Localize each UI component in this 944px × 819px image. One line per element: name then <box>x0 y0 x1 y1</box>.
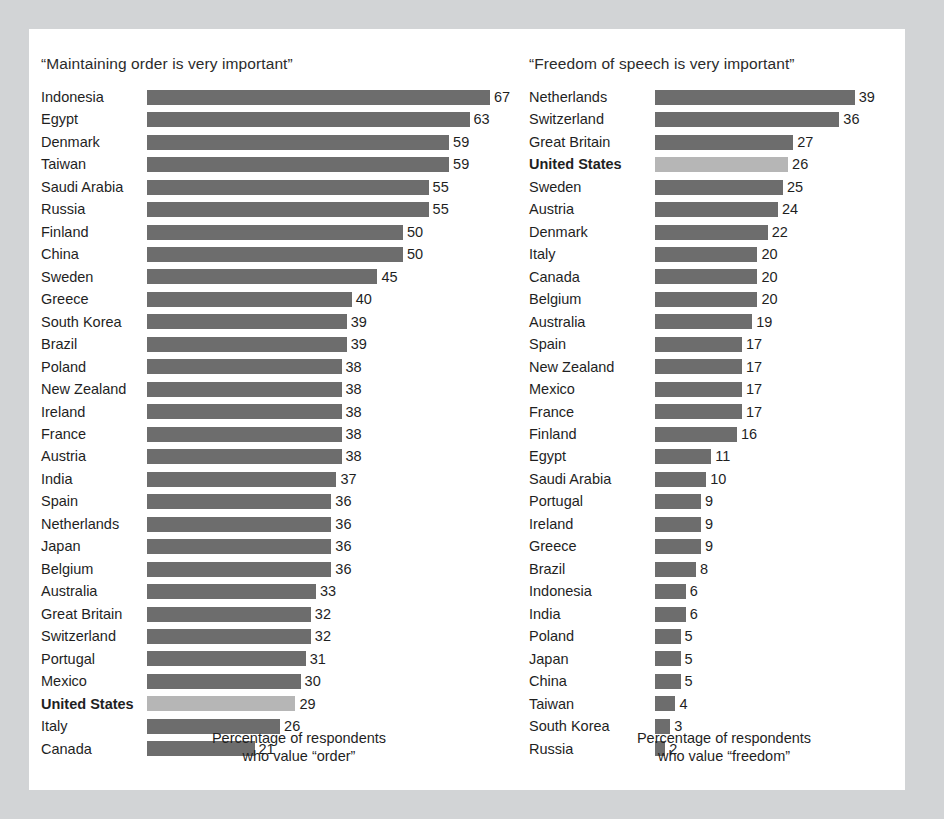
chart-title-order: “Maintaining order is very important” <box>41 55 293 73</box>
bar-row-label: Great Britain <box>529 135 655 150</box>
bar-row: Russia55 <box>29 198 529 220</box>
bar-track: 32 <box>147 603 529 625</box>
bar-row: Sweden45 <box>29 266 529 288</box>
bar-value-label: 24 <box>782 202 798 217</box>
bar-row-label: Egypt <box>529 449 655 464</box>
bar <box>147 292 352 307</box>
bar-track: 9 <box>655 535 905 557</box>
bar-row-label: Brazil <box>529 562 655 577</box>
bar <box>147 584 316 599</box>
bar-value-label: 22 <box>772 225 788 240</box>
bar-rows-freedom: Netherlands39Switzerland36Great Britain2… <box>529 86 905 760</box>
bar-track: 67 <box>147 86 529 108</box>
bar-value-label: 19 <box>756 315 772 330</box>
bar-row: United States29 <box>29 693 529 715</box>
bar-row-label: United States <box>29 697 147 712</box>
bar-row-label: Saudi Arabia <box>529 472 655 487</box>
bar <box>655 607 686 622</box>
bar-value-label: 50 <box>407 225 423 240</box>
bar-row-label: Indonesia <box>29 90 147 105</box>
bar-track: 17 <box>655 356 905 378</box>
bar-value-label: 36 <box>335 494 351 509</box>
bar-track: 9 <box>655 513 905 535</box>
bar-row-label: Denmark <box>529 225 655 240</box>
bar <box>147 382 342 397</box>
bar-row-label: Belgium <box>529 292 655 307</box>
axis-caption-freedom-line1: Percentage of respondents <box>559 729 889 748</box>
bar-value-label: 39 <box>351 337 367 352</box>
bar <box>655 135 793 150</box>
bar-row-label: Australia <box>29 584 147 599</box>
bar-row: Italy20 <box>529 243 905 265</box>
bar <box>655 449 711 464</box>
bar-track: 37 <box>147 468 529 490</box>
bar-value-label: 36 <box>335 539 351 554</box>
bar-value-label: 50 <box>407 247 423 262</box>
bar-row-label: Switzerland <box>29 629 147 644</box>
bar-track: 39 <box>147 311 529 333</box>
bar <box>655 629 681 644</box>
bar-row-label: Great Britain <box>29 607 147 622</box>
bar-row-label: Greece <box>529 539 655 554</box>
bar-track: 38 <box>147 356 529 378</box>
bar-track: 55 <box>147 176 529 198</box>
bar-track: 6 <box>655 580 905 602</box>
bar-row: Japan5 <box>529 648 905 670</box>
bar-track: 22 <box>655 221 905 243</box>
bar <box>655 404 742 419</box>
bar-value-label: 6 <box>690 584 698 599</box>
bar-row: France17 <box>529 401 905 423</box>
bar-row-label: Indonesia <box>529 584 655 599</box>
bar-value-label: 5 <box>685 652 693 667</box>
bar-row-label: Ireland <box>529 517 655 532</box>
chart-freedom-of-speech: “Freedom of speech is very important” Ne… <box>529 29 905 790</box>
bar-track: 5 <box>655 625 905 647</box>
bar-row: Brazil8 <box>529 558 905 580</box>
bar-row-label: India <box>529 607 655 622</box>
bar-track: 45 <box>147 266 529 288</box>
bar <box>655 517 701 532</box>
bar-track: 16 <box>655 423 905 445</box>
bar-row-label: Spain <box>29 494 147 509</box>
bar-row: Indonesia67 <box>29 86 529 108</box>
bar-row: Mexico17 <box>529 378 905 400</box>
bar-row-label: Belgium <box>29 562 147 577</box>
bar-value-label: 16 <box>741 427 757 442</box>
bar-track: 38 <box>147 378 529 400</box>
bar-track: 50 <box>147 243 529 265</box>
bar-value-label: 20 <box>761 270 777 285</box>
bar-row: Finland50 <box>29 221 529 243</box>
bar-row: Greece40 <box>29 288 529 310</box>
bar-row: Netherlands36 <box>29 513 529 535</box>
bar-value-label: 32 <box>315 607 331 622</box>
bar-row-label: United States <box>529 157 655 172</box>
bar-track: 24 <box>655 198 905 220</box>
bar-row: Mexico30 <box>29 670 529 692</box>
bar <box>655 472 706 487</box>
bar-track: 17 <box>655 333 905 355</box>
axis-caption-freedom: Percentage of respondents who value “fre… <box>559 729 889 766</box>
bar-row-label: Portugal <box>29 652 147 667</box>
bar-row-label: Poland <box>29 360 147 375</box>
bar-track: 29 <box>147 693 529 715</box>
bar-value-label: 59 <box>453 157 469 172</box>
bar-value-label: 26 <box>792 157 808 172</box>
bar-row-label: Russia <box>29 202 147 217</box>
bar-row: France38 <box>29 423 529 445</box>
bar-row: Portugal31 <box>29 648 529 670</box>
bar-row: India37 <box>29 468 529 490</box>
bar-row: Switzerland32 <box>29 625 529 647</box>
bar-track: 40 <box>147 288 529 310</box>
bar-row: Poland38 <box>29 356 529 378</box>
bar-value-label: 39 <box>859 90 875 105</box>
bar-track: 63 <box>147 108 529 130</box>
axis-caption-order: Percentage of respondents who value “ord… <box>109 729 489 766</box>
bar <box>147 314 347 329</box>
bar-row-label: France <box>29 427 147 442</box>
bar-row: Belgium20 <box>529 288 905 310</box>
bar-row-label: Sweden <box>529 180 655 195</box>
bar-track: 32 <box>147 625 529 647</box>
bar <box>655 180 783 195</box>
bar-track: 38 <box>147 446 529 468</box>
bar <box>147 494 331 509</box>
